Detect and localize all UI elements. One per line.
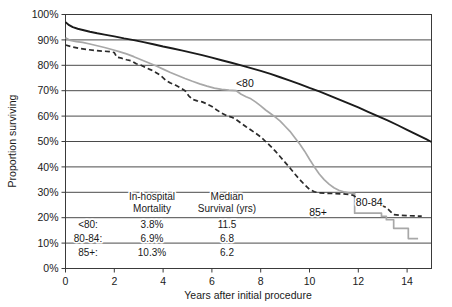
table-row-mortality-2: 10.3% <box>138 247 166 258</box>
table-row-group-2: 85+: <box>78 247 98 258</box>
x-tick-label: 8 <box>258 275 264 287</box>
y-tick-label: 60% <box>37 110 58 122</box>
y-tick-label: 90% <box>37 34 58 46</box>
y-tick-label: 0% <box>43 262 58 274</box>
y-axis-title: Proportion surviving <box>6 94 18 187</box>
x-tick-label: 4 <box>160 275 166 287</box>
y-tick-label: 70% <box>37 84 58 96</box>
table-header-survival-line2: Survival (yrs) <box>198 203 256 214</box>
x-axis-title: Years after initial procedure <box>184 289 312 301</box>
y-tick-label: 50% <box>37 135 58 147</box>
table-row-survival-2: 6.2 <box>220 247 234 258</box>
y-tick-label: 40% <box>37 161 58 173</box>
x-tick-label: 6 <box>209 275 215 287</box>
y-tick-label: 80% <box>37 59 58 71</box>
y-tick-label: 100% <box>32 8 59 20</box>
series-label-80: <80 <box>236 77 254 89</box>
table-header-mortality-line1: In-hospital <box>129 191 175 202</box>
table-header-mortality-line2: Mortality <box>133 203 171 214</box>
table-row-mortality-1: 6.9% <box>141 233 164 244</box>
table-row-mortality-0: 3.8% <box>141 219 164 230</box>
table-header-survival-line1: Median <box>211 191 244 202</box>
table-row-group-1: 80-84: <box>74 233 102 244</box>
y-tick-label: 30% <box>37 186 58 198</box>
x-tick-label: 10 <box>304 275 316 287</box>
x-tick-label: 2 <box>111 275 117 287</box>
series-label-85: 85+ <box>309 206 327 218</box>
survival-chart: 0%10%20%30%40%50%60%70%80%90%100% 024681… <box>0 0 452 307</box>
x-tick-label: 12 <box>352 275 364 287</box>
x-tick-label: 14 <box>401 275 413 287</box>
survival-curve-figure: 0%10%20%30%40%50%60%70%80%90%100% 024681… <box>0 0 452 307</box>
table-row-survival-1: 6.8 <box>220 233 234 244</box>
y-tick-label: 10% <box>37 237 58 249</box>
x-tick-label: 0 <box>63 275 69 287</box>
series-label-8084: 80-84 <box>356 196 383 208</box>
y-tick-label: 20% <box>37 211 58 223</box>
table-row-survival-0: 11.5 <box>218 219 237 230</box>
table-row-group-0: <80: <box>78 219 98 230</box>
